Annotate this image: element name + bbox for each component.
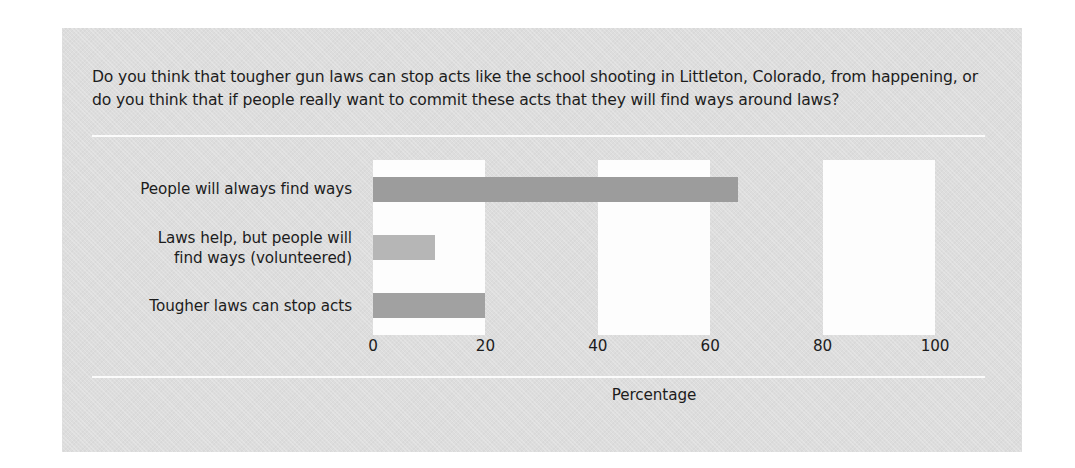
bar-series [373, 160, 935, 335]
x-tick-label: 60 [701, 337, 720, 355]
question-text: Do you think that tougher gun laws can s… [92, 66, 992, 112]
x-tick-label: 40 [588, 337, 607, 355]
x-tick-label: 100 [921, 337, 950, 355]
bar [373, 235, 435, 260]
bar [373, 293, 485, 318]
bar [373, 177, 738, 202]
poll-panel: Do you think that tougher gun laws can s… [62, 28, 1022, 452]
header-divider [92, 135, 985, 137]
category-label: Laws help, but people will find ways (vo… [158, 228, 352, 268]
x-tick-label: 20 [476, 337, 495, 355]
x-tick-label: 0 [368, 337, 378, 355]
category-label: Tougher laws can stop acts [149, 296, 352, 316]
x-axis-tick-labels: 020406080100 [373, 337, 935, 361]
category-axis-labels: People will always find waysLaws help, b… [102, 160, 364, 335]
category-label: People will always find ways [140, 179, 352, 199]
plot-area [373, 160, 935, 335]
figure-root: Do you think that tougher gun laws can s… [0, 0, 1075, 468]
axis-divider [92, 376, 985, 378]
x-tick-label: 80 [813, 337, 832, 355]
x-axis-title: Percentage [373, 386, 935, 404]
